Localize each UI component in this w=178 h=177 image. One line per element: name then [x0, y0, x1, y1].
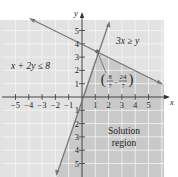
svg-text:,: ,	[115, 77, 117, 85]
svg-text:2: 2	[106, 100, 110, 110]
intersection-point	[95, 49, 99, 53]
svg-text:8: 8	[108, 73, 112, 81]
inequality-label-1: x + 2y ≤ 8	[10, 61, 50, 71]
svg-text:1: 1	[93, 100, 97, 110]
svg-text:3: 3	[120, 100, 124, 110]
svg-text:1: 1	[75, 79, 79, 89]
svg-text:−5: −5	[11, 100, 20, 110]
svg-text:24: 24	[120, 73, 128, 81]
svg-text:): )	[129, 72, 134, 88]
svg-text:Solution: Solution	[108, 126, 140, 136]
svg-text:−3: −3	[38, 100, 47, 110]
svg-text:−4: −4	[24, 100, 34, 110]
svg-text:7: 7	[108, 82, 112, 90]
svg-text:(: (	[101, 72, 106, 88]
svg-text:2: 2	[75, 119, 79, 129]
y-axis-arrow-icon	[80, 12, 84, 18]
y-axis-label: y	[73, 8, 78, 18]
svg-text:−2: −2	[51, 100, 60, 110]
svg-text:2: 2	[75, 65, 79, 75]
svg-text:3: 3	[75, 132, 79, 142]
svg-text:−1: −1	[64, 100, 73, 110]
svg-text:3: 3	[75, 52, 79, 62]
svg-text:7: 7	[121, 82, 125, 90]
inequality-label-2: 3x ≥ y	[115, 36, 140, 46]
inequality-graph: −5 −4 −3 −2 −1 1 2 3 4 5 x 5 4 3 2 1 1 2…	[0, 0, 178, 177]
x-axis-label: x	[169, 97, 174, 107]
svg-text:5: 5	[146, 100, 150, 110]
svg-text:1: 1	[75, 105, 79, 115]
svg-text:5: 5	[75, 26, 79, 36]
svg-text:4: 4	[133, 100, 138, 110]
svg-text:5: 5	[75, 159, 79, 169]
svg-text:region: region	[112, 138, 137, 148]
